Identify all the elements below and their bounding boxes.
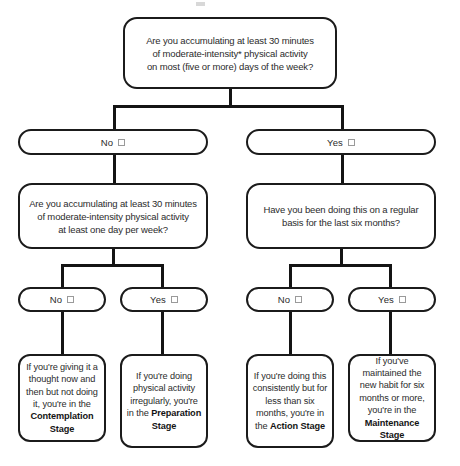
outcome-maintenance-stage: Maintenance Stage [365,418,420,440]
connector-q2-stem [112,249,115,265]
answer-no-3-label: No [278,294,290,305]
connector-q1-to-no [113,105,116,129]
question-2-line-2: of moderate-intensity physical activity [37,211,189,222]
outcome-box-action: If you're doing this consistently but fo… [246,354,334,448]
connector-yes2-to-preparation [161,311,164,355]
checkbox-icon[interactable] [67,296,74,303]
question-box-1: Are you accumulating at least 30 minutes… [123,17,337,89]
outcome-box-preparation: If you're doing physical activity irregu… [120,354,208,448]
connector-q2-to-yes [161,264,164,287]
connector-q2-bar [61,264,164,267]
connector-no3-to-action [289,311,292,355]
question-2-line-1: Are you accumulating at least 30 minutes [29,198,197,209]
connector-q1-to-yes [341,105,344,129]
answer-box-yes-3[interactable]: Yes [348,287,436,312]
connector-q3-to-yes [389,264,392,287]
question-1-text: Are you accumulating at least 30 minutes… [125,34,335,73]
answer-no-2-content: No [20,294,104,305]
answer-box-no-3[interactable]: No [246,287,334,312]
checkbox-icon[interactable] [118,139,125,146]
answer-yes-2-label: Yes [150,294,166,305]
checkbox-icon[interactable] [171,296,178,303]
checkbox-icon[interactable] [295,296,302,303]
answer-box-no-2[interactable]: No [18,287,106,312]
question-box-3: Have you been doing this on a regular ba… [246,183,436,249]
answer-yes-1-content: Yes [248,137,434,148]
connector-q2-to-no [61,264,64,287]
question-1-line-3: on most (five or more) days of the week? [147,61,313,72]
outcome-contemplation-stage: Contemplation Stage [30,411,93,433]
answer-yes-3-label: Yes [378,294,394,305]
answer-box-no-1[interactable]: No [18,129,208,155]
connector-q1-bar [113,105,344,108]
answer-yes-3-content: Yes [350,294,434,305]
connector-q1-stem [229,89,232,106]
outcome-preparation-stage: Preparation Stage [151,408,201,430]
flowchart-diagram: Are you accumulating at least 30 minutes… [0,0,460,466]
connector-yes3-to-maintenance [389,311,392,355]
outcome-action-stage: Action Stage [270,421,325,431]
question-2-line-3: at least one day per week? [58,224,168,235]
connector-no1-to-q2 [113,154,116,184]
outcome-box-maintenance: If you've maintained the new habit for s… [348,354,436,442]
question-3-line-1: Have you been doing this on a regular [263,204,418,215]
checkbox-icon[interactable] [348,139,355,146]
answer-no-2-label: No [50,294,62,305]
outcome-contemplation-body: If you're giving it a thought now and th… [26,362,98,409]
question-box-2: Are you accumulating at least 30 minutes… [18,183,208,249]
connector-q3-to-no [289,264,292,287]
outcome-maintenance-text: If you've maintained the new habit for s… [350,355,434,442]
connector-no2-to-contemplation [61,311,64,355]
question-1-line-2: of moderate-intensity* physical activity [152,48,307,59]
question-3-text: Have you been doing this on a regular ba… [248,203,434,229]
answer-box-yes-2[interactable]: Yes [120,287,208,312]
answer-no-1-label: No [101,137,113,148]
answer-no-3-content: No [248,294,332,305]
answer-yes-1-label: Yes [327,137,343,148]
question-3-line-2: basis for the last six months? [282,217,400,228]
connector-q3-stem [340,249,343,265]
answer-yes-2-content: Yes [122,294,206,305]
answer-box-yes-1[interactable]: Yes [246,129,436,155]
connector-yes1-to-q3 [341,154,344,184]
outcome-box-contemplation: If you're giving it a thought now and th… [18,354,106,442]
checkbox-icon[interactable] [399,296,406,303]
outcome-preparation-text: If you're doing physical activity irregu… [122,370,206,432]
question-2-text: Are you accumulating at least 30 minutes… [20,197,206,236]
scan-artifact [196,2,205,6]
outcome-action-text: If you're doing this consistently but fo… [248,370,332,432]
answer-no-1-content: No [20,137,206,148]
question-1-line-1: Are you accumulating at least 30 minutes [146,35,314,46]
outcome-maintenance-body: If you've maintained the new habit for s… [359,356,424,416]
connector-q3-bar [289,264,392,267]
outcome-contemplation-text: If you're giving it a thought now and th… [20,361,104,435]
